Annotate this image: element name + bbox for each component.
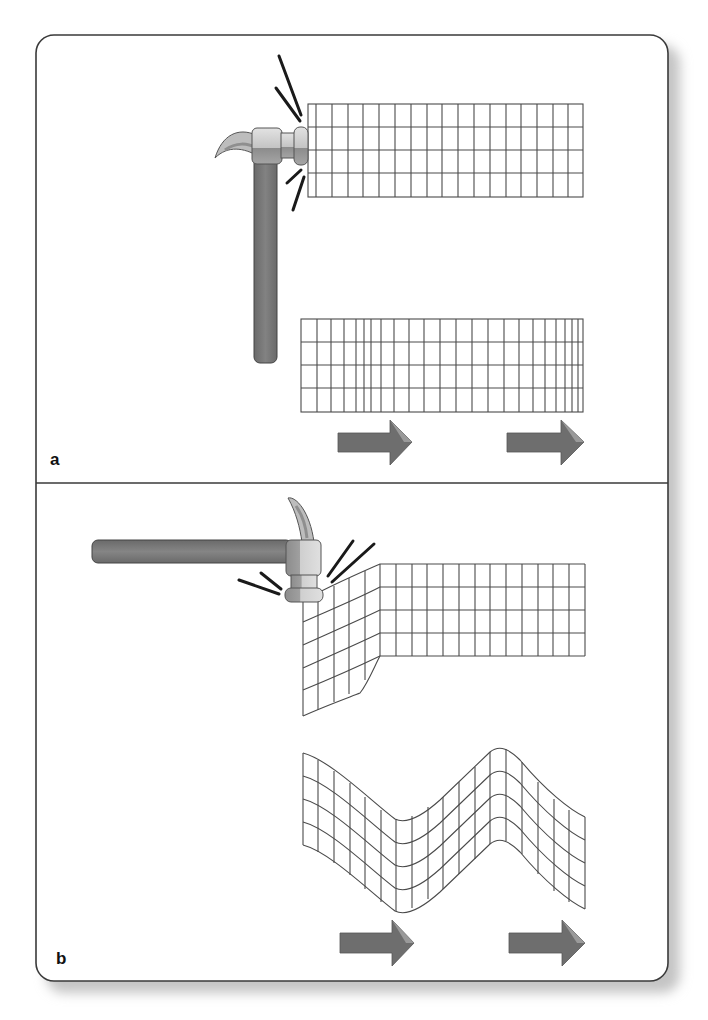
panel-label-b: b <box>56 949 66 969</box>
grid-initial-a <box>308 104 583 197</box>
figure: a b <box>0 0 708 1020</box>
grid-compressed-a <box>301 319 583 412</box>
panel-label-a: a <box>50 450 59 470</box>
